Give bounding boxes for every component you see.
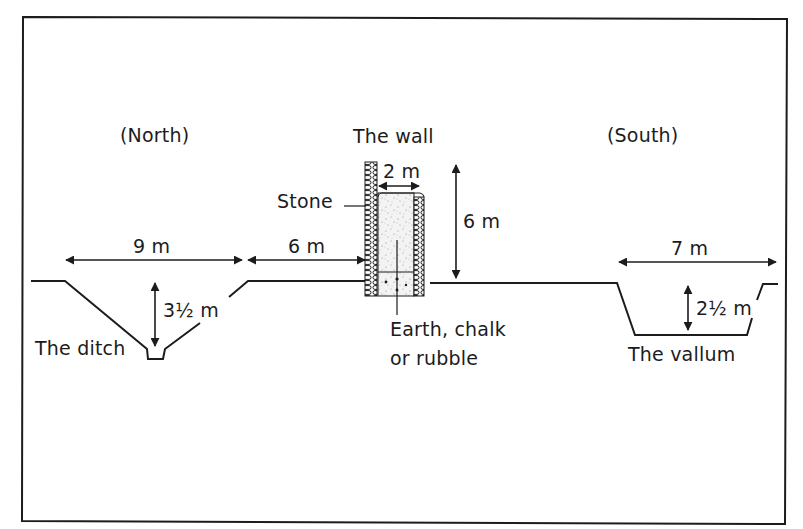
wall-height-label: 6 m bbox=[463, 212, 500, 231]
cross-section-drawing bbox=[0, 0, 803, 529]
wall-width-label: 2 m bbox=[383, 162, 420, 181]
north-label: (North) bbox=[120, 126, 189, 145]
vallum-width-label: 7 m bbox=[671, 239, 708, 258]
ditch-width-label: 9 m bbox=[133, 237, 170, 256]
south-label: (South) bbox=[607, 126, 678, 145]
wall-title-label: The wall bbox=[353, 127, 434, 146]
stone-label: Stone bbox=[277, 192, 333, 211]
berm-width-label: 6 m bbox=[288, 237, 325, 256]
vallum-label: The vallum bbox=[628, 345, 735, 364]
vallum-depth-label: 2½ m bbox=[696, 299, 752, 318]
diagram-canvas: (North) (South) The wall 2 m Stone 6 m 9… bbox=[0, 0, 803, 529]
ditch-depth-label: 3½ m bbox=[163, 301, 219, 320]
wall-structure bbox=[365, 162, 424, 296]
core-label-line2: or rubble bbox=[390, 349, 478, 368]
core-label-line1: Earth, chalk bbox=[390, 320, 506, 339]
ditch-label: The ditch bbox=[35, 339, 125, 358]
